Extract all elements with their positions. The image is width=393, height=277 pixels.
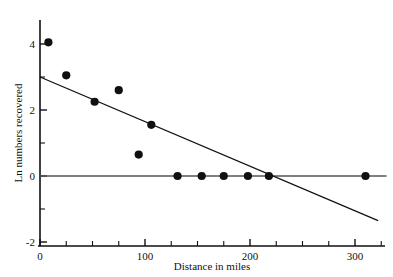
data-point: [361, 172, 369, 180]
x-tick-label: 100: [137, 250, 154, 262]
data-point: [91, 98, 99, 106]
data-point: [135, 150, 143, 158]
y-axis-title: Ln numbers recovered: [12, 83, 24, 182]
regression-trend-line: [40, 77, 378, 221]
axes-group: [38, 20, 385, 246]
data-point: [44, 38, 52, 46]
y-tick-label: -2: [26, 236, 35, 248]
data-point: [147, 121, 155, 129]
data-point: [173, 172, 181, 180]
x-tick-label: 300: [347, 250, 364, 262]
data-point: [244, 172, 252, 180]
data-point: [220, 172, 228, 180]
scatter-chart: 0100200300 -2024 Distance in miles Ln nu…: [0, 0, 393, 277]
data-point: [198, 172, 206, 180]
y-tick-label: 0: [30, 170, 36, 182]
x-tick-label: 0: [37, 250, 43, 262]
x-axis-title: Distance in miles: [174, 260, 250, 272]
data-point: [265, 172, 273, 180]
chart-canvas: 0100200300 -2024 Distance in miles Ln nu…: [0, 0, 393, 277]
y-axis-tick-labels: -2024: [26, 38, 36, 248]
data-point: [115, 86, 123, 94]
data-points-group: [44, 38, 369, 180]
data-point: [62, 71, 70, 79]
y-tick-label: 2: [30, 104, 36, 116]
y-tick-label: 4: [30, 38, 36, 50]
